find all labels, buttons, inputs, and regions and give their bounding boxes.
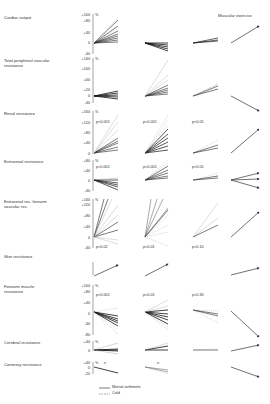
panel-forearm-muscle — [94, 300, 259, 337]
panel-coronary — [94, 367, 259, 377]
figure-plot-area — [0, 0, 270, 404]
panel-renal — [94, 115, 259, 153]
panel-cerebral — [94, 343, 259, 354]
legend-mental-arithmetic: Mental arithmetic — [112, 385, 141, 389]
panel-cardiac-output — [94, 18, 259, 51]
panel-skin — [93, 262, 259, 276]
panel-forearm-vascular — [94, 199, 259, 246]
panel-extrarenal — [94, 160, 259, 190]
panel-tpvr — [94, 60, 259, 111]
legend-cold: Cold — [112, 391, 120, 395]
